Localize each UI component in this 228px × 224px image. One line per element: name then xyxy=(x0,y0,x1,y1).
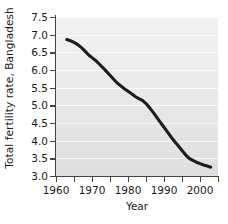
y-tick-label: 7.0 xyxy=(31,29,48,41)
y-tick-label: 6.5 xyxy=(31,46,48,58)
y-axis-line xyxy=(55,15,56,177)
x-tick-mark xyxy=(164,177,165,182)
y-tick-label: 5.5 xyxy=(31,82,48,94)
y-tick-mark xyxy=(50,17,55,18)
x-tick-mark xyxy=(200,177,201,182)
x-axis-title: Year xyxy=(56,200,218,212)
x-tick-label: 1980 xyxy=(115,184,142,196)
y-tick-mark xyxy=(50,52,55,53)
y-tick-label: 4.0 xyxy=(31,135,48,147)
fertility-rate-line xyxy=(56,17,218,176)
x-tick-mark xyxy=(182,177,183,182)
plot-area xyxy=(56,17,218,176)
y-tick-mark xyxy=(50,88,55,89)
x-tick-label: 1970 xyxy=(79,184,106,196)
y-tick-label: 3.0 xyxy=(31,170,48,182)
x-tick-mark xyxy=(128,177,129,182)
x-tick-mark xyxy=(146,177,147,182)
y-axis-title-text: Total fertility rate, Bangladesh xyxy=(3,7,15,169)
y-tick-label: 4.5 xyxy=(31,117,48,129)
x-tick-label: 2000 xyxy=(187,184,214,196)
x-axis-tick-labels: 19601970198019902000 xyxy=(0,184,228,200)
x-tick-label: 1990 xyxy=(151,184,178,196)
y-tick-mark xyxy=(50,70,55,71)
chart-figure: Total fertility rate, Bangladesh 3.03.54… xyxy=(0,0,228,224)
x-tick-mark xyxy=(56,177,57,182)
x-tick-label: 1960 xyxy=(43,184,70,196)
y-tick-mark xyxy=(50,105,55,106)
y-tick-label: 5.0 xyxy=(31,99,48,111)
y-tick-label: 3.5 xyxy=(31,152,48,164)
x-tick-mark xyxy=(92,177,93,182)
y-axis-tick-labels: 3.03.54.04.55.05.56.06.57.07.5 xyxy=(18,0,51,180)
y-axis-title: Total fertility rate, Bangladesh xyxy=(0,0,18,176)
y-tick-mark xyxy=(50,176,55,177)
y-tick-mark xyxy=(50,158,55,159)
y-tick-mark xyxy=(50,35,55,36)
x-tick-mark xyxy=(74,177,75,182)
x-tick-mark xyxy=(110,177,111,182)
y-tick-mark xyxy=(50,123,55,124)
y-tick-label: 6.0 xyxy=(31,64,48,76)
x-tick-mark xyxy=(218,177,219,182)
x-axis-line xyxy=(55,176,219,177)
y-tick-label: 7.5 xyxy=(31,11,48,23)
y-tick-mark xyxy=(50,141,55,142)
